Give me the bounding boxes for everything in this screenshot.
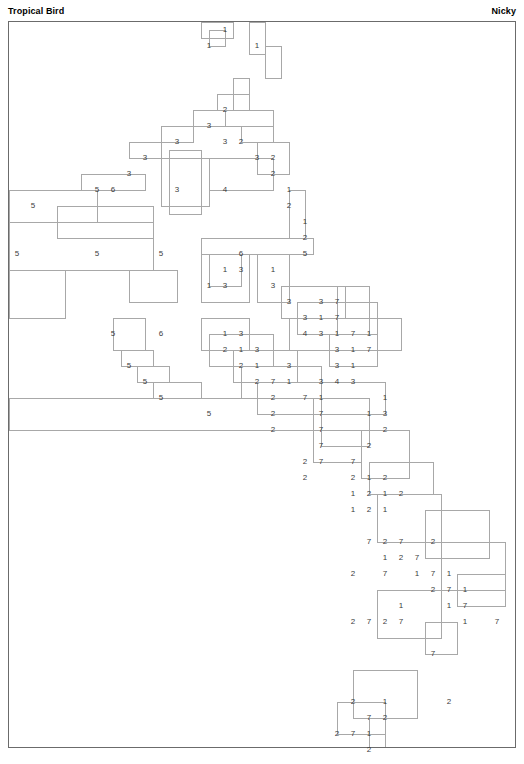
region-outline <box>170 151 202 215</box>
region-outline <box>114 319 146 351</box>
author-label: Nicky <box>491 6 516 16</box>
region-outline <box>370 719 386 748</box>
region-outline <box>242 127 274 143</box>
region-outline <box>210 255 242 287</box>
region-outline <box>162 127 194 143</box>
region-outline <box>378 495 442 543</box>
region-outline <box>258 255 290 303</box>
region-outline <box>162 159 210 207</box>
region-outline <box>130 143 162 159</box>
region-outline <box>202 255 250 303</box>
region-outline <box>338 287 370 335</box>
region-outline <box>442 543 506 591</box>
region-outline <box>194 111 226 127</box>
region-outline <box>322 399 370 447</box>
region-outline <box>10 223 154 271</box>
region-outline <box>82 175 146 191</box>
puzzle-board[interactable]: 1112333233232563412512555651311333373175… <box>8 21 516 748</box>
region-outline <box>202 239 314 255</box>
puzzle-page: Tropical Bird Nicky 11123332332325634125… <box>0 0 524 764</box>
region-outline <box>290 191 306 239</box>
region-outline <box>10 271 66 319</box>
region-outline <box>122 351 154 367</box>
region-outline <box>266 47 282 79</box>
region-outline <box>130 271 178 303</box>
region-outline <box>378 591 442 639</box>
region-outline <box>362 431 410 479</box>
region-outline <box>154 383 202 399</box>
region-outline <box>226 111 274 127</box>
region-outline-layer <box>9 22 515 747</box>
region-outline <box>250 23 266 55</box>
region-outline <box>138 367 170 383</box>
page-title: Tropical Bird <box>8 6 64 16</box>
region-outline <box>426 511 490 559</box>
